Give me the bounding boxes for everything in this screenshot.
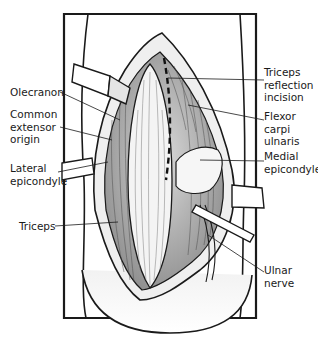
label-line: epicondyle: [10, 175, 67, 188]
label-common-extensor-origin: Common extensor origin: [10, 108, 57, 146]
retractor-upper-left: [72, 64, 130, 104]
label-line: Ulnar: [264, 264, 294, 277]
label-lateral-epicondyle: Lateral epicondyle: [10, 162, 67, 187]
label-flexor-carpi-ulnaris: Flexor carpi ulnaris: [264, 110, 299, 148]
label-line: Lateral: [10, 162, 67, 175]
label-line: Olecranon: [10, 86, 64, 99]
anatomical-illustration: Olecranon Common extensor origin Lateral…: [0, 0, 318, 341]
label-line: origin: [10, 133, 57, 146]
label-medial-epicondyle: Medial epicondyle: [264, 150, 318, 175]
label-line: Triceps: [19, 220, 55, 233]
label-line: extensor: [10, 121, 57, 134]
label-line: reflection: [264, 79, 314, 92]
label-line: epicondyle: [264, 163, 318, 176]
label-line: carpi: [264, 123, 299, 136]
label-ulnar-nerve: Ulnar nerve: [264, 264, 294, 289]
retractor-medial: [232, 185, 264, 208]
label-line: incision: [264, 91, 314, 104]
label-line: nerve: [264, 277, 294, 290]
label-line: Triceps: [264, 66, 314, 79]
label-line: Medial: [264, 150, 318, 163]
label-line: ulnaris: [264, 135, 299, 148]
label-line: Common: [10, 108, 57, 121]
label-olecranon: Olecranon: [10, 86, 64, 99]
label-line: Flexor: [264, 110, 299, 123]
label-triceps-reflection-incision: Triceps reflection incision: [264, 66, 314, 104]
label-triceps: Triceps: [19, 220, 55, 233]
